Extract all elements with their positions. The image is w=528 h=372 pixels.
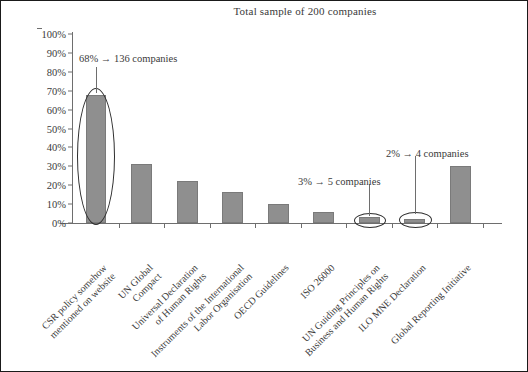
x-tick-mark: [255, 223, 256, 228]
chart-figure: Total sample of 200 companies 100% 90% 8…: [0, 0, 528, 372]
x-tick-mark: [392, 223, 393, 228]
x-tick-mark: [346, 223, 347, 228]
bar-iso-26000[interactable]: [313, 212, 334, 223]
highlight-ellipse-csr-policy: [77, 88, 115, 225]
leader-line-ilo-mne: [415, 156, 416, 214]
highlight-ellipse-un-guiding: [354, 213, 386, 228]
bar-ilo-instruments[interactable]: [222, 192, 243, 223]
bar-un-global-compact[interactable]: [131, 164, 152, 223]
x-tick-mark: [483, 223, 484, 228]
y-tick-mark: [68, 90, 73, 91]
y-tick-mark: [68, 34, 73, 35]
x-tick-mark: [437, 223, 438, 228]
x-tick-mark: [301, 223, 302, 228]
y-tick-mark: [68, 128, 73, 129]
x-axis-label-iso-26000: ISO 26000: [298, 262, 337, 301]
y-tick-mark: [68, 71, 73, 72]
x-axis-label-line1: ISO 26000: [298, 262, 337, 301]
bar-universal-declaration[interactable]: [177, 181, 198, 223]
annotation-csr-policy: 68% → 136 companies: [79, 53, 177, 64]
annotation-un-guiding: 3% → 5 companies: [298, 176, 381, 187]
y-tick-mark: [68, 204, 73, 205]
leader-line-un-guiding: [369, 184, 370, 216]
bar-global-reporting[interactable]: [450, 166, 471, 223]
y-tick-mark: [68, 109, 73, 110]
x-axis-label-line1: UN Guiding Principles on: [294, 262, 382, 350]
x-tick-mark: [164, 223, 165, 228]
y-tick-mark: [68, 147, 73, 148]
page-title: Total sample of 200 companies: [1, 5, 528, 17]
bar-oecd-guidelines[interactable]: [268, 204, 289, 223]
x-tick-mark: [210, 223, 211, 228]
x-tick-mark: [119, 223, 120, 228]
x-axis-label-line1: Global Reporting Initiative: [388, 262, 473, 347]
x-axis-label-line1: CSR policy somehow: [39, 262, 109, 332]
y-tick-mark: [68, 166, 73, 167]
y-tick-mark: [68, 185, 73, 186]
x-axis-label-csr-policy: CSR policy somehow mentioned on website: [39, 262, 117, 340]
annotation-ilo-mne: 2% → 4 companies: [386, 148, 469, 159]
y-tick-mark: [68, 52, 73, 53]
x-axis-line: [60, 223, 502, 224]
y-tick-mark: [68, 223, 73, 224]
highlight-ellipse-ilo-mne: [399, 212, 432, 228]
x-axis-label-global-reporting: Global Reporting Initiative: [388, 262, 473, 347]
leader-line-csr-policy: [96, 67, 97, 93]
